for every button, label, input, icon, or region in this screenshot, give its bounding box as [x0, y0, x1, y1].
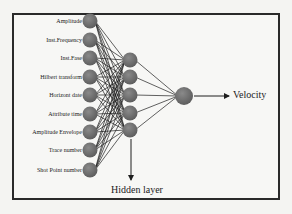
input-label-trace-number: Trace number — [49, 146, 82, 154]
input-node — [83, 70, 98, 85]
input-label-inst-frequency: Inst.Frequency — [46, 36, 82, 44]
hidden-node — [123, 88, 138, 103]
network-nodes — [83, 14, 194, 178]
connection-edge — [135, 77, 178, 96]
connection-edge — [135, 60, 178, 96]
input-node — [83, 33, 98, 48]
input-node — [83, 14, 98, 29]
input-label-inst-fase: Inst.Fase — [61, 54, 83, 62]
hidden-layer-label: Hidden layer — [111, 184, 163, 195]
input-node — [83, 125, 98, 140]
hidden-node — [123, 70, 138, 85]
input-label-attribute-time: Attribute time — [48, 110, 82, 118]
input-label-amplitude-envelope: Amplitude Envelope — [32, 128, 82, 136]
input-label-horizont-date: Horizont date — [49, 91, 82, 99]
connection-edge — [135, 95, 178, 96]
hidden-node — [123, 123, 138, 138]
input-node — [83, 51, 98, 66]
input-node — [83, 88, 98, 103]
connection-edge — [95, 40, 125, 60]
input-label-shot-point-number: Shot Point number — [37, 166, 82, 174]
output-node — [175, 87, 193, 105]
connection-edge — [135, 96, 178, 130]
output-label-velocity: Velocity — [233, 89, 266, 100]
input-label-amplitude: Amplitude — [56, 17, 82, 25]
input-node — [83, 107, 98, 122]
input-label-hilbert-transform: Hilbert transform — [40, 73, 82, 81]
input-node — [83, 143, 98, 158]
hidden-node — [123, 53, 138, 68]
input-node — [83, 163, 98, 178]
connection-edge — [135, 96, 178, 113]
hidden-node — [123, 106, 138, 121]
network-graph — [0, 0, 292, 214]
